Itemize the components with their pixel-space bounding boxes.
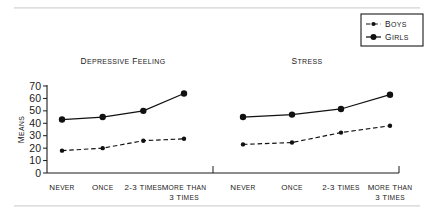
y-tick-label: 50 xyxy=(29,104,41,116)
y-tick-label: 0 xyxy=(35,167,41,179)
svg-text:MEANS: MEANS xyxy=(17,116,26,143)
x-category-label: ONCE xyxy=(92,183,114,192)
x-category-label: 3 TIMES xyxy=(169,193,199,202)
legend-marker-girls xyxy=(371,34,377,40)
x-category-label: ONCE xyxy=(281,183,303,192)
y-axis-title: MEANS xyxy=(17,116,26,143)
data-point-girls xyxy=(240,114,246,120)
data-point-boys xyxy=(241,142,245,146)
data-point-girls xyxy=(289,111,295,117)
data-point-girls xyxy=(181,90,187,96)
y-tick-label: 20 xyxy=(29,142,41,154)
x-axis xyxy=(47,166,399,173)
figure: 010203040506070MEANSDEPRESSIVE FEELINGNE… xyxy=(0,0,434,217)
x-category-label: 3 TIMES xyxy=(375,193,405,202)
legend-label: BOYS xyxy=(385,19,407,29)
data-point-boys xyxy=(100,146,104,150)
series-line-boys xyxy=(243,126,390,145)
y-tick-label: 60 xyxy=(29,92,41,104)
legend-label: GIRLS xyxy=(385,32,409,42)
data-point-boys xyxy=(388,124,392,128)
x-category-label: NEVER xyxy=(230,183,255,192)
x-category-label: 2-3 TIMES xyxy=(125,183,163,192)
panel-1: DEPRESSIVE FEELINGNEVERONCE2-3 TIMESMORE… xyxy=(49,56,206,202)
y-tick-label: 40 xyxy=(29,117,41,129)
data-point-girls xyxy=(59,116,65,122)
data-point-girls xyxy=(387,92,393,98)
y-tick-label: 30 xyxy=(29,129,41,141)
panel-title: DEPRESSIVE FEELING xyxy=(81,56,166,66)
y-axis: 010203040506070 xyxy=(29,80,47,179)
series-line-boys xyxy=(62,139,184,151)
data-point-boys xyxy=(60,148,64,152)
data-point-girls xyxy=(140,108,146,114)
data-point-girls xyxy=(99,114,105,120)
y-tick-label: 70 xyxy=(29,80,41,92)
x-category-label: 2-3 TIMES xyxy=(322,183,360,192)
panel-2: STRESSNEVERONCE2-3 TIMESMORE THAN3 TIMES xyxy=(230,56,412,202)
legend-marker-boys xyxy=(371,22,375,26)
line-chart: 010203040506070MEANSDEPRESSIVE FEELINGNE… xyxy=(0,0,434,217)
x-category-label: MORE THAN xyxy=(368,183,413,192)
data-point-boys xyxy=(141,138,145,142)
x-category-label: MORE THAN xyxy=(162,183,207,192)
panel-title: STRESS xyxy=(292,56,323,66)
series-line-girls xyxy=(62,93,184,119)
data-point-boys xyxy=(339,130,343,134)
legend: BOYSGIRLS xyxy=(361,14,423,46)
y-tick-label: 10 xyxy=(29,154,41,166)
series-line-girls xyxy=(243,95,390,117)
data-point-boys xyxy=(290,140,294,144)
data-point-girls xyxy=(338,106,344,112)
data-point-boys xyxy=(182,137,186,141)
x-category-label: NEVER xyxy=(49,183,74,192)
